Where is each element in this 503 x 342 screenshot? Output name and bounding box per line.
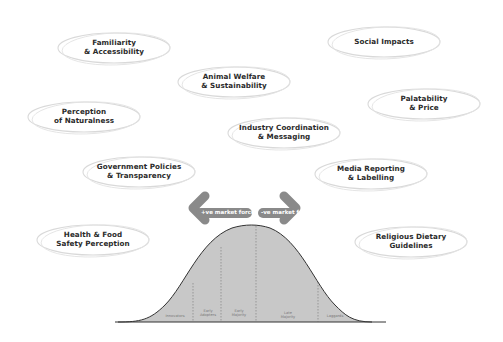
factor-bubble: Perception of Naturalness <box>25 97 143 137</box>
factor-bubble: Animal Welfare & Sustainability <box>175 62 293 102</box>
factor-label: Familiarity & Accessibility <box>84 39 144 56</box>
factor-label: Industry Coordination & Messaging <box>239 124 329 141</box>
factor-label: Religious Dietary Guidelines <box>376 233 446 250</box>
segment-laggards: Laggards <box>320 314 350 318</box>
factor-label: Government Policies & Transparency <box>97 163 181 180</box>
segment-early-majority: Early Majority <box>222 309 256 317</box>
factor-bubble: Religious Dietary Guidelines <box>352 222 470 262</box>
factor-bubble: Industry Coordination & Messaging <box>225 113 343 153</box>
factor-bubble: Government Policies & Transparency <box>80 152 198 192</box>
factor-label: Animal Welfare & Sustainability <box>201 73 267 90</box>
factor-bubble: Social Impacts <box>325 22 443 62</box>
factor-label: Perception of Naturalness <box>54 108 114 125</box>
factor-bubble: Familiarity & Accessibility <box>55 28 173 68</box>
factor-bubble: Palatability & Price <box>365 84 483 124</box>
factor-label: Social Impacts <box>354 38 414 47</box>
factor-bubble: Media Reporting & Labelling <box>312 154 430 194</box>
negative-force-label: -ve market force <box>261 209 312 215</box>
segment-innovators: Innovators <box>155 314 195 318</box>
factor-label: Media Reporting & Labelling <box>337 165 405 182</box>
segment-late-majority: Late Majority <box>258 311 318 319</box>
factor-label: Palatability & Price <box>401 95 448 112</box>
factor-bubble: Health & Food Safety Perception <box>34 220 152 260</box>
segment-early-adopters: Early Adopters <box>195 309 221 317</box>
positive-force-label: +ve market force <box>201 209 255 215</box>
factor-label: Health & Food Safety Perception <box>56 231 129 248</box>
